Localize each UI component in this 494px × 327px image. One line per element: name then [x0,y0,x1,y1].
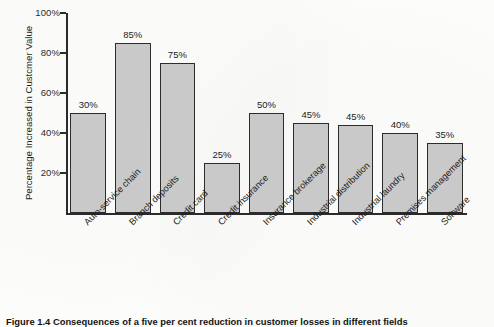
bar-value-label: 25% [192,150,252,160]
bar-value-label: 35% [415,130,475,140]
y-axis-tick-label-wrap: 100% [20,8,60,18]
y-axis-title-holder: Percentage Increased in Custcmer Value [8,8,24,213]
y-axis-tick-label-wrap: 60% [20,88,60,98]
bar-value-label: 50% [236,100,296,110]
figure-caption: Figure 1.4 Consequences of a five per ce… [6,316,492,327]
bar[interactable] [70,113,106,213]
bar[interactable] [249,113,285,213]
y-axis-tick-label-wrap: 20% [20,168,60,178]
y-axis-tick-label-wrap: 40% [20,128,60,138]
x-axis-category-layer: Auto-service chainBranch depositsCredit … [0,216,494,311]
bar-value-label: 40% [370,120,430,130]
figure-bar-chart: Percentage Increased in Custcmer Value 1… [0,0,494,327]
y-axis-title: Percentage Increased in Custcmer Value [24,8,34,218]
y-axis-tick-label: 60% [28,88,60,98]
y-axis-tick-label-wrap: 80% [20,48,60,58]
y-axis-tick-label: 100% [28,8,60,18]
bar-value-label: 30% [58,100,118,110]
y-axis-tick-label: 80% [28,48,60,58]
bar-group[interactable]: 25% [200,13,245,213]
bar-value-label: 85% [103,30,163,40]
bar-group[interactable]: 30% [66,13,111,213]
y-axis-tick-label: 20% [28,168,60,178]
bar-value-label: 75% [147,50,207,60]
y-axis-tick-label: 40% [28,128,60,138]
